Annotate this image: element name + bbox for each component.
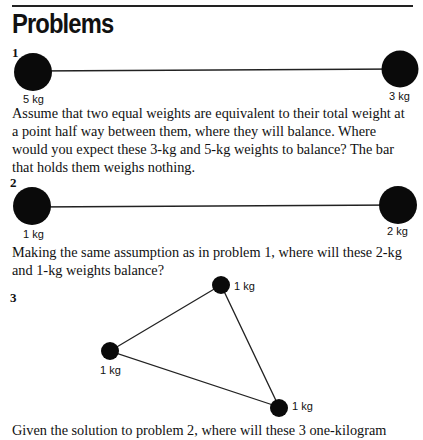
triangle: [110, 285, 279, 407]
weight-left: [101, 342, 119, 360]
problem-2-diagram: [13, 186, 417, 225]
weight-2kg: [379, 186, 417, 224]
weight-label: 1 kg: [100, 364, 121, 376]
weight-3kg: [382, 51, 419, 88]
weight-bottom-right: [270, 399, 288, 417]
weight-1kg: [13, 187, 51, 225]
weight-5kg: [14, 53, 52, 91]
weight-label: 2 kg: [387, 225, 408, 237]
weight-label: 3 kg: [389, 90, 410, 102]
figures: [0, 0, 423, 440]
bar: [33, 69, 400, 71]
problem-text: Assume that two equal weights are equiva…: [12, 104, 412, 176]
problem-3-diagram: [101, 276, 288, 417]
problem-1-diagram: [14, 51, 419, 92]
problem-text: Given the solution to problem 2, where w…: [12, 421, 412, 439]
problem-number: 3: [10, 290, 17, 306]
problem-number: 1: [12, 45, 19, 61]
weight-label: 1 kg: [234, 280, 255, 292]
weight-label: 1 kg: [23, 228, 44, 240]
bar: [32, 205, 398, 207]
problem-text: Making the same assumption as in problem…: [12, 243, 412, 279]
weight-label: 1 kg: [292, 400, 313, 412]
problem-number: 2: [10, 175, 17, 191]
